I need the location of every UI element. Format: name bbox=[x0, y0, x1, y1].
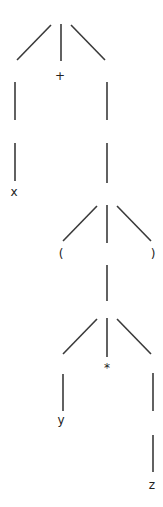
tree-labels: +x()*yz bbox=[10, 69, 155, 492]
node-label-plus: + bbox=[55, 69, 65, 83]
tree-edges bbox=[15, 24, 153, 472]
node-label-x: x bbox=[10, 185, 17, 199]
node-label-star: * bbox=[104, 361, 110, 375]
tree-edge bbox=[63, 319, 97, 354]
tree-edge bbox=[117, 319, 151, 354]
tree-edge bbox=[17, 25, 51, 60]
parse-tree-diagram: +x()*yz bbox=[0, 0, 163, 507]
tree-edge bbox=[71, 25, 105, 60]
node-label-rparen: ) bbox=[151, 247, 156, 261]
tree-edge bbox=[63, 206, 97, 241]
node-label-y: y bbox=[57, 413, 64, 427]
node-label-lparen: ( bbox=[59, 247, 64, 261]
node-label-z: z bbox=[149, 478, 155, 492]
tree-edge bbox=[117, 206, 151, 241]
